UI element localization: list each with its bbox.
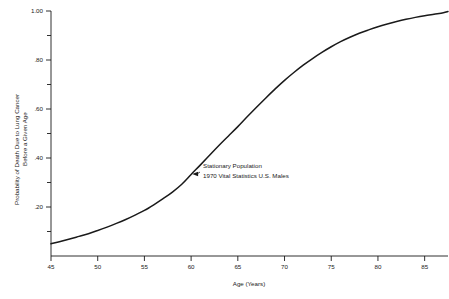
y-axis-title-line-1: Probability of Death Due to Lung Cancer xyxy=(13,94,20,205)
x-tick-label: 65 xyxy=(234,263,241,270)
x-axis-ticks xyxy=(51,256,425,261)
y-tick-label: .80 xyxy=(34,56,43,63)
data-series-line xyxy=(51,11,448,243)
y-axis-tick-labels: .20.40.60.801.00 xyxy=(31,7,44,210)
x-tick-label: 85 xyxy=(421,263,428,270)
chart-figure: .20.40.60.801.00 455055606570758085 Stat… xyxy=(0,0,449,299)
y-axis-ticks xyxy=(46,11,51,232)
x-tick-label: 75 xyxy=(328,263,335,270)
x-axis-title: Age (Years) xyxy=(233,280,265,287)
x-axis-tick-labels: 455055606570758085 xyxy=(48,263,429,270)
x-tick-label: 45 xyxy=(48,263,55,270)
x-tick-label: 80 xyxy=(374,263,381,270)
y-tick-label: .20 xyxy=(34,203,43,210)
x-tick-label: 55 xyxy=(141,263,148,270)
y-tick-label: .40 xyxy=(34,154,43,161)
x-tick-label: 50 xyxy=(94,263,101,270)
chart-svg: .20.40.60.801.00 455055606570758085 Stat… xyxy=(0,0,449,299)
y-tick-label: .60 xyxy=(34,105,43,112)
annotation-line-1: Stationary Population xyxy=(203,162,262,169)
annotation-line-2: 1970 Vital Statistics U.S. Males xyxy=(203,172,289,179)
y-tick-label: 1.00 xyxy=(31,7,44,14)
x-tick-label: 60 xyxy=(188,263,195,270)
x-tick-label: 70 xyxy=(281,263,288,270)
y-axis-title-line-2: Before a Given Age xyxy=(21,112,28,166)
